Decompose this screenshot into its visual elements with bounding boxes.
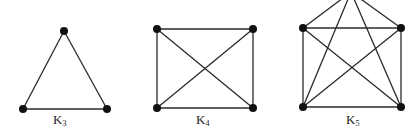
graph-label: K3 bbox=[53, 112, 66, 128]
vertex bbox=[299, 24, 307, 32]
edge bbox=[351, 0, 401, 107]
vertex bbox=[299, 103, 307, 111]
vertex bbox=[397, 103, 405, 111]
vertex bbox=[249, 25, 257, 33]
complete-graphs-diagram: K3 K4 K5 bbox=[0, 0, 417, 133]
graph-k4: K4 bbox=[153, 25, 257, 128]
vertex bbox=[103, 105, 111, 113]
vertex bbox=[19, 105, 27, 113]
vertex bbox=[397, 24, 405, 32]
vertex bbox=[60, 27, 68, 35]
vertex bbox=[249, 104, 257, 112]
edge bbox=[64, 31, 107, 109]
edge bbox=[351, 0, 401, 28]
edge bbox=[303, 0, 351, 28]
edge bbox=[303, 0, 351, 107]
graph-label: K4 bbox=[196, 112, 209, 128]
graph-k5: K5 bbox=[299, 0, 405, 128]
vertex bbox=[153, 104, 161, 112]
edge bbox=[23, 31, 64, 109]
vertex bbox=[153, 25, 161, 33]
graph-label: K5 bbox=[346, 112, 359, 128]
graph-k3: K3 bbox=[19, 27, 111, 128]
